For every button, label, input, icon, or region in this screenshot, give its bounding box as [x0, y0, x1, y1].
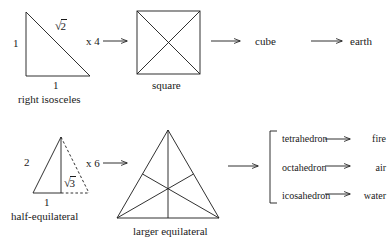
icosahedron-label: icosahedron	[282, 190, 335, 201]
water-label: water	[360, 190, 386, 201]
sqrt-2-label: √2	[55, 19, 67, 34]
octahedron-label: octahedron	[282, 162, 343, 173]
radicand-value: 3	[70, 176, 77, 189]
multiplier-x4-label: x 4	[86, 36, 100, 47]
multiplier-x6-label: x 6	[86, 158, 100, 169]
half-equilateral-triangle	[33, 137, 89, 193]
air-label: air	[371, 162, 386, 173]
square-bracket-left	[270, 131, 277, 203]
bracket-row: tetrahedron fire	[282, 133, 386, 144]
tetrahedron-label: tetrahedron	[282, 133, 341, 144]
fire-label: fire	[368, 133, 386, 144]
cube-label: cube	[255, 36, 276, 47]
diagram-linework	[0, 0, 390, 244]
earth-label: earth	[350, 36, 372, 47]
platonic-solids-diagram: 1 1 √2 x 4 square right isosceles cube e…	[0, 0, 390, 244]
square-caption: square	[152, 80, 181, 91]
square-shape	[137, 11, 200, 74]
radicand-value: 2	[61, 19, 68, 32]
bracket-row: icosahedron water	[282, 190, 386, 201]
half-equilateral-caption: half-equilateral	[11, 211, 78, 222]
half-equilateral-base-label: 1	[44, 197, 50, 208]
bracket-row: octahedron air	[282, 162, 386, 173]
larger-equilateral-triangle	[117, 130, 219, 218]
sqrt-3-label: √3	[64, 176, 76, 191]
right-isosceles-vertical-leg-label: 1	[13, 38, 19, 49]
solids-elements-bracket-list: tetrahedron fire octahedron air icosahed…	[282, 133, 386, 201]
right-isosceles-base-label: 1	[53, 80, 59, 91]
half-equilateral-hypotenuse-label: 2	[24, 157, 30, 168]
right-isosceles-caption: right isosceles	[18, 94, 81, 105]
larger-equilateral-caption: larger equilateral	[133, 226, 208, 237]
